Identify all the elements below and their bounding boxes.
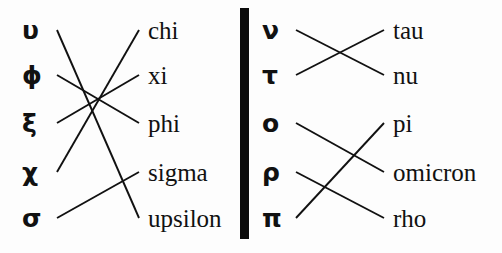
left-greek-chi[interactable]: χ [22,160,38,185]
right-word-nu[interactable]: nu [393,63,418,88]
right-connection-lines [252,0,502,253]
left-word-phi[interactable]: phi [148,111,180,136]
left-chi-line[interactable] [57,30,139,172]
right-word-tau[interactable]: tau [393,18,424,43]
right-greek-pi[interactable]: π [262,206,282,231]
panel-divider-bar [240,8,249,239]
left-word-sigma[interactable]: sigma [148,160,208,185]
right-matching-panel: ντορπ taunupiomicronrho [252,0,502,253]
left-word-xi[interactable]: xi [148,63,167,88]
left-greek-upsilon[interactable]: υ [22,18,39,43]
right-greek-rho[interactable]: ρ [262,160,280,185]
left-matching-panel: υϕξχσ chixiphisigmaupsilon [0,0,240,253]
left-upsilon-line[interactable] [57,30,139,218]
right-word-omicron[interactable]: omicron [393,160,476,185]
right-word-pi[interactable]: pi [393,111,412,136]
right-word-rho[interactable]: rho [393,206,426,231]
left-greek-xi[interactable]: ξ [22,111,37,136]
right-pi-line[interactable] [296,123,384,218]
right-greek-tau[interactable]: τ [262,63,278,88]
left-sigma-line[interactable] [57,172,139,218]
right-greek-omicron[interactable]: ο [262,111,279,136]
left-greek-sigma[interactable]: σ [22,206,41,231]
matching-exercise-figure: υϕξχσ chixiphisigmaupsilon ντορπ taunupi… [0,0,502,253]
right-rho-line[interactable] [296,172,384,218]
right-omicron-line[interactable] [296,123,384,172]
left-word-upsilon[interactable]: upsilon [148,206,222,231]
left-greek-phi[interactable]: ϕ [22,63,42,88]
left-word-chi[interactable]: chi [148,18,179,43]
right-greek-nu[interactable]: ν [262,18,279,43]
